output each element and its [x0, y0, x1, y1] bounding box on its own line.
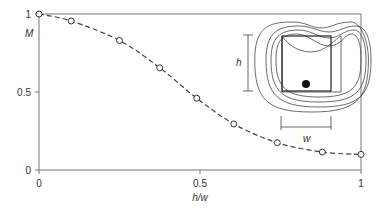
data-point — [319, 149, 325, 155]
x-tick-0: 0 — [36, 178, 42, 189]
inset-diagram — [243, 22, 371, 130]
x-axis-label: h/w — [192, 192, 208, 203]
x-tick-1: 1 — [358, 178, 364, 189]
data-point — [157, 65, 163, 71]
data-markers — [36, 11, 364, 157]
data-point — [117, 38, 123, 44]
inset-label-w: w — [303, 133, 311, 144]
y-tick-0: 0 — [25, 165, 31, 176]
y-tick-0.5: 0.5 — [17, 87, 31, 98]
data-point — [68, 18, 74, 24]
data-line — [39, 14, 361, 154]
data-point — [274, 140, 280, 146]
x-tick-0.5: 0.5 — [193, 178, 207, 189]
y-axis-label: M — [25, 28, 34, 39]
data-point — [358, 151, 364, 157]
chart: 1 0.5 0 0 0.5 1 M h/w h w — [0, 0, 377, 212]
y-tick-1: 1 — [25, 9, 31, 20]
inset-label-h: h — [236, 57, 242, 68]
data-point — [194, 95, 200, 101]
data-point — [231, 121, 237, 127]
data-point — [36, 11, 42, 17]
